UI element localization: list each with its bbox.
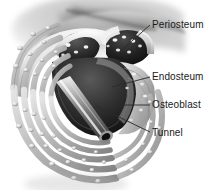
- label-osteoblast: Osteoblast: [152, 99, 201, 110]
- label-endosteum: Endosteum: [152, 71, 204, 82]
- label-tunnel: Tunnel: [152, 127, 183, 138]
- label-periosteum: Periosteum: [152, 19, 204, 30]
